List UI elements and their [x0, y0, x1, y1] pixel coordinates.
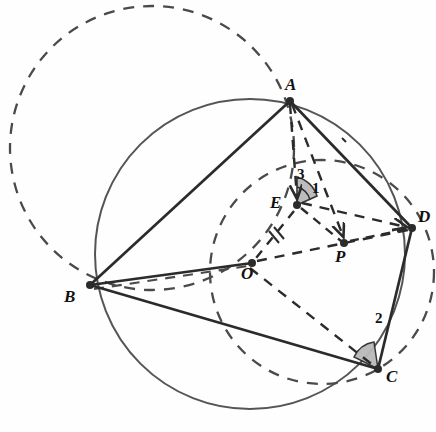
point-label-O: O	[241, 265, 253, 282]
point-label-D: D	[418, 208, 430, 225]
angle-label-3: 3	[297, 167, 305, 182]
segment-OC	[250, 268, 374, 366]
segment-CD	[378, 228, 412, 369]
geometry-figure: A B C D E O P 1 2 3	[0, 0, 436, 432]
segment-EO	[256, 211, 294, 258]
vertex-dot-E	[293, 201, 301, 209]
vertex-dot-C	[374, 365, 382, 373]
segment-BO-dashed	[94, 266, 248, 289]
dashed-circle-upper-left	[10, 6, 294, 290]
point-label-C: C	[386, 368, 397, 385]
segment-DA	[290, 101, 412, 228]
vertex-dot-P	[340, 239, 348, 247]
point-label-P: P	[335, 248, 345, 265]
geometry-canvas	[0, 0, 436, 432]
vertex-dot-B	[86, 281, 94, 289]
point-label-E: E	[270, 194, 281, 211]
segment-AB	[90, 101, 290, 285]
segment-BO	[90, 263, 252, 285]
vertex-dot-A	[286, 97, 294, 105]
angle-label-1: 1	[312, 181, 320, 196]
vertex-dot-D	[408, 224, 416, 232]
tick-DA	[342, 138, 346, 142]
point-label-B: B	[64, 288, 75, 305]
point-label-A: A	[285, 76, 296, 93]
angle-label-2: 2	[375, 311, 383, 326]
